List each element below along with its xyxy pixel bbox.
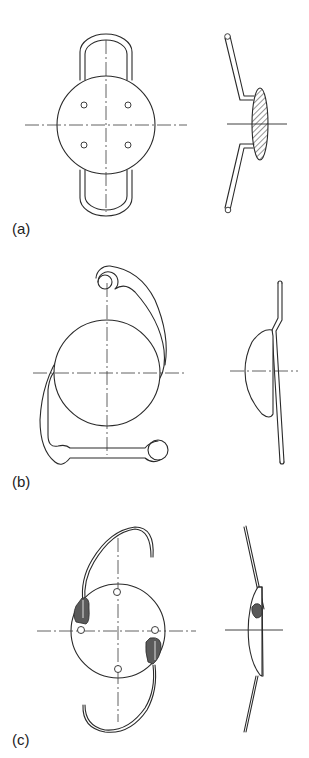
lower-eyelet (148, 440, 168, 460)
panel-a-side-view (225, 34, 287, 213)
positioning-hole (78, 627, 85, 634)
panel-label-c: (c) (12, 731, 30, 748)
panel-b-side-view (230, 281, 298, 464)
positioning-hole (125, 102, 131, 108)
optic-cross-section (248, 587, 262, 676)
positioning-hole (115, 666, 122, 673)
panel-label-a: (a) (12, 220, 30, 237)
positioning-hole (125, 142, 131, 148)
positioning-hole (81, 102, 87, 108)
positioning-hole (114, 589, 121, 596)
panel-a-front-view (25, 34, 187, 216)
positioning-hole (152, 627, 159, 634)
fixation-pad-upper (74, 598, 89, 624)
panel-b-front-view (33, 266, 187, 464)
panel-a: (a) (12, 34, 287, 237)
panel-c: (c) (12, 526, 283, 748)
optic-cross-section (245, 330, 273, 417)
panel-c-front-view (37, 527, 196, 732)
positioning-hole (81, 142, 87, 148)
panel-c-side-view (225, 526, 283, 732)
upper-eyelet (98, 275, 112, 289)
iol-diagram-figure: (a) (b) (0, 0, 309, 758)
fixation-pad-lower (146, 638, 161, 664)
panel-b: (b) (12, 266, 298, 490)
panel-label-b: (b) (12, 473, 30, 490)
